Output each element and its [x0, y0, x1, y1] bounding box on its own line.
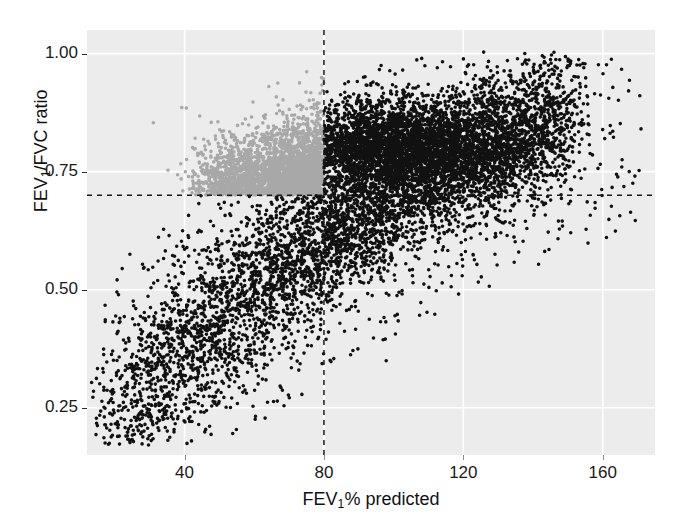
y-tickmark — [82, 172, 87, 173]
x-tickmark — [185, 455, 186, 460]
x-axis-title-main: FEV — [303, 489, 338, 509]
y-tickmark — [82, 408, 87, 409]
x-axis-title: FEV1% predicted — [87, 489, 655, 511]
y-axis-title: FEV1/FVC ratio — [31, 0, 53, 311]
y-tick-label: 0.25 — [45, 397, 78, 417]
x-axis-tick-labels: 4080120160 — [0, 463, 677, 489]
plot-canvas — [87, 30, 655, 455]
scatter-plot-figure: 0.250.500.751.00 4080120160 FEV1/FVC rat… — [0, 0, 677, 522]
x-tick-label: 80 — [314, 463, 333, 483]
y-axis-title-main: FEV — [31, 177, 51, 212]
y-axis-title-tail: /FVC ratio — [31, 89, 51, 170]
x-axis-title-tail: % predicted — [344, 489, 439, 509]
x-tick-label: 40 — [175, 463, 194, 483]
x-tick-label: 160 — [589, 463, 617, 483]
x-tick-label: 120 — [449, 463, 477, 483]
data-points-black — [90, 50, 643, 447]
data-points-grey — [152, 70, 326, 197]
data-points-grey-marks — [152, 70, 326, 197]
figure-caption: · — [0, 516, 677, 522]
x-tickmark — [603, 455, 604, 460]
plot-panel — [87, 30, 655, 455]
y-axis-title-subscript: 1 — [39, 170, 53, 177]
x-tickmark — [324, 455, 325, 460]
x-tickmark — [463, 455, 464, 460]
data-points-black-marks — [90, 50, 643, 447]
y-tickmark — [82, 290, 87, 291]
y-tickmark — [82, 54, 87, 55]
